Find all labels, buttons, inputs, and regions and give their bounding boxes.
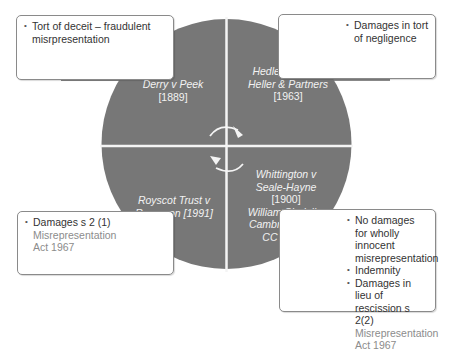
case-line: Royscot Trust v — [124, 194, 224, 207]
bullet-item: Tort of deceit – fraudulent misrpresenta… — [23, 20, 167, 45]
case-line: Heller & Partners — [238, 78, 338, 91]
box-top-right: Damages in tort of negligence — [278, 14, 436, 79]
case-line: Whittington v — [236, 168, 336, 181]
bullet-item: Damages in lieu of rescission s 2(2) Mis… — [346, 277, 429, 352]
bullet-item: Indemnity — [346, 264, 429, 277]
box-bottom-left: Damages s 2 (1) Misrepresentation Act 19… — [17, 211, 174, 275]
bullet-item: Damages s 2 (1) Misrepresentation Act 19… — [24, 216, 167, 254]
bullet-text: Damages s 2 (1) — [33, 216, 111, 228]
box-top-left: Tort of deceit – fraudulent misrpresenta… — [16, 15, 174, 80]
bullet-text: Damages in lieu of rescission s 2(2) — [355, 277, 411, 327]
act-reference: Misrepresentation Act 1967 — [355, 327, 429, 352]
bullet-item: No damages for wholly innocent misrepres… — [346, 214, 429, 264]
case-year: [1900] — [236, 193, 336, 206]
case-year: [1963] — [238, 90, 338, 103]
quadrant-top-left: Derry v Peek [1889] — [128, 78, 218, 103]
act-reference: Misrepresentation Act 1967 — [33, 229, 113, 254]
bullet-item: Damages in tort of negligence — [345, 19, 429, 44]
box-bottom-right: No damages for wholly innocent misrepres… — [279, 209, 436, 312]
case-line: Seale-Hayne — [236, 181, 336, 194]
case-year: [1889] — [128, 91, 218, 104]
